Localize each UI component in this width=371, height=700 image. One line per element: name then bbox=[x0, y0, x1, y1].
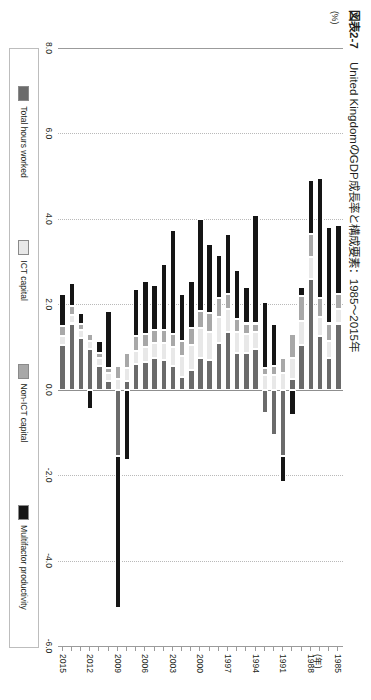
bar-segment bbox=[262, 368, 268, 374]
bar-segment bbox=[69, 306, 75, 315]
bar-segment bbox=[207, 332, 213, 360]
bar-group bbox=[124, 48, 130, 646]
legend-label: ICT capital bbox=[19, 260, 29, 300]
legend-label: Multifactor productivity bbox=[19, 525, 29, 610]
bar-segment bbox=[308, 234, 314, 257]
bar-segment bbox=[326, 341, 332, 358]
bar-segment bbox=[179, 341, 185, 356]
bar-segment bbox=[170, 366, 176, 389]
bar-segment bbox=[87, 390, 93, 409]
category-tick bbox=[291, 646, 292, 651]
category-tick bbox=[144, 646, 145, 651]
legend-swatch bbox=[19, 86, 30, 101]
value-tick-label: 0.0 bbox=[44, 384, 54, 396]
legend-label: Total hours worked bbox=[19, 106, 29, 177]
bar-segment bbox=[289, 358, 295, 379]
bar-segment bbox=[216, 317, 222, 343]
bar-segment bbox=[271, 375, 277, 390]
bar-segment bbox=[317, 298, 323, 317]
category-tick bbox=[154, 646, 155, 651]
bar-segment bbox=[115, 456, 121, 608]
bar-segment bbox=[133, 336, 139, 351]
category-tick bbox=[301, 646, 302, 651]
category-tick bbox=[310, 646, 311, 651]
bar-segment bbox=[298, 296, 304, 322]
bar-group bbox=[252, 48, 258, 646]
category-tick-label: 2009 bbox=[113, 654, 123, 673]
category-tick bbox=[62, 646, 63, 651]
bar-segment bbox=[207, 313, 213, 332]
category-tick bbox=[117, 646, 118, 651]
bar-segment bbox=[335, 309, 341, 324]
bar-segment bbox=[69, 324, 75, 390]
bar-segment bbox=[133, 289, 139, 336]
category-tick bbox=[172, 646, 173, 651]
bar-segment bbox=[161, 360, 167, 390]
bar-segment bbox=[59, 326, 65, 337]
bar-segment bbox=[115, 390, 121, 456]
bar-group bbox=[289, 48, 295, 646]
category-tick bbox=[80, 646, 81, 651]
category-tick bbox=[218, 646, 219, 651]
bar-segment bbox=[225, 332, 231, 390]
bar-segment bbox=[252, 349, 258, 390]
bar-group bbox=[133, 48, 139, 646]
bar-segment bbox=[335, 294, 341, 309]
bar-segment bbox=[317, 317, 323, 336]
bar-segment bbox=[105, 381, 111, 390]
bar-segment bbox=[179, 356, 185, 377]
bar-segment bbox=[262, 302, 268, 368]
bar-segment bbox=[280, 390, 286, 456]
bar-segment bbox=[234, 353, 240, 389]
bar-group bbox=[69, 48, 75, 646]
category-tick bbox=[89, 646, 90, 651]
bar-segment bbox=[317, 178, 323, 298]
bar-segment bbox=[78, 330, 84, 339]
bar-segment bbox=[298, 287, 304, 296]
bar-group bbox=[115, 48, 121, 646]
bar-segment bbox=[262, 390, 268, 413]
bar-segment bbox=[252, 215, 258, 324]
bar-segment bbox=[96, 358, 102, 367]
bar-segment bbox=[133, 351, 139, 364]
bar-segment bbox=[243, 287, 249, 323]
bar-segment bbox=[326, 358, 332, 390]
bar-segment bbox=[298, 321, 304, 344]
bar-segment bbox=[216, 255, 222, 298]
bar-group bbox=[179, 48, 185, 646]
category-tick-label: 2006 bbox=[140, 654, 150, 673]
value-tick-label: -6.0 bbox=[44, 639, 54, 654]
year-unit-label: (年) bbox=[313, 654, 325, 669]
bar-segment bbox=[335, 225, 341, 293]
category-tick-label: 1985 bbox=[333, 654, 343, 673]
bar-segment bbox=[308, 279, 314, 390]
bar-segment bbox=[271, 324, 277, 367]
bar-segment bbox=[252, 332, 258, 349]
bar-segment bbox=[96, 341, 102, 354]
category-tick bbox=[227, 646, 228, 651]
bar-group bbox=[262, 48, 268, 646]
category-tick bbox=[209, 646, 210, 651]
category-tick bbox=[282, 646, 283, 651]
value-tick-label: -4.0 bbox=[44, 553, 54, 568]
bar-segment bbox=[124, 368, 130, 381]
value-tick-label: 8.0 bbox=[44, 42, 54, 54]
figure-number: 図表2-7 bbox=[348, 10, 360, 49]
bar-segment bbox=[124, 353, 130, 368]
bar-segment bbox=[326, 227, 332, 323]
category-tick bbox=[126, 646, 127, 651]
bar-segment bbox=[115, 366, 121, 379]
bar-segment bbox=[197, 328, 203, 358]
bar-segment bbox=[252, 324, 258, 333]
legend-item: ICT capital bbox=[19, 240, 30, 300]
legend-swatch bbox=[19, 240, 30, 255]
legend-label: Non-ICT capital bbox=[19, 384, 29, 443]
bar-segment bbox=[142, 362, 148, 390]
bar-segment bbox=[188, 370, 194, 389]
bar-segment bbox=[289, 334, 295, 357]
category-tick bbox=[71, 646, 72, 651]
bar-segment bbox=[271, 366, 277, 375]
bar-segment bbox=[216, 298, 222, 317]
bar-segment bbox=[59, 345, 65, 390]
bar-group bbox=[234, 48, 240, 646]
